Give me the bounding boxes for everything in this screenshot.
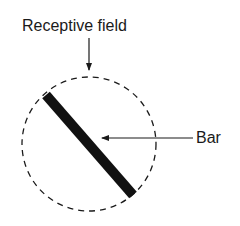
bar-stimulus (46, 95, 133, 195)
receptive-field-label: Receptive field (22, 18, 127, 34)
bar-label: Bar (196, 130, 221, 146)
